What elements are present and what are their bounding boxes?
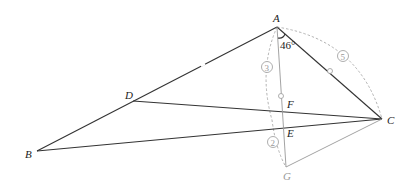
label-F: F	[286, 98, 294, 110]
label-C: C	[387, 114, 395, 126]
geometry-diagram: 46° 3 5 2 A B C D F E G	[0, 0, 411, 193]
tick-mark-AD	[201, 64, 205, 66]
circled-number-5: 5	[341, 52, 346, 62]
segment-DC	[133, 101, 382, 119]
label-D: D	[124, 89, 133, 101]
label-B: B	[25, 148, 32, 160]
circled-number-3: 3	[265, 63, 270, 73]
equal-marker-AC	[328, 69, 333, 74]
angle-arc-A	[278, 34, 285, 38]
angle-label: 46°	[280, 39, 295, 51]
label-E: E	[286, 127, 294, 139]
circled-number-2: 2	[271, 138, 276, 148]
label-A: A	[272, 12, 280, 24]
equal-marker-AF	[279, 94, 284, 99]
label-G: G	[283, 170, 291, 182]
